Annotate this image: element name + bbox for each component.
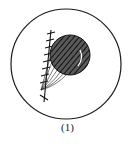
hatched-ball: [50, 35, 90, 75]
diagram-figure: (1): [0, 0, 135, 144]
figure-caption: (1): [0, 121, 135, 133]
